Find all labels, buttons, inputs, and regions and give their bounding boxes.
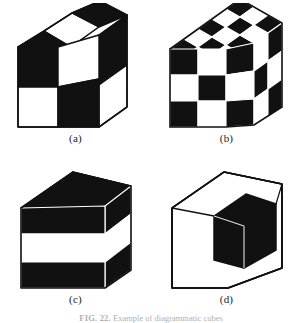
cube-a-svg <box>16 3 136 129</box>
panel-d: (d) <box>151 161 302 322</box>
panel-b-label: (b) <box>220 132 233 144</box>
cube-c-svg <box>15 164 137 290</box>
cube-b-front-face <box>170 43 254 127</box>
panel-a-label: (a) <box>69 132 82 144</box>
figure-caption-text: Example of diagrammatic cubes <box>113 314 223 323</box>
cube-b-svg <box>164 3 290 129</box>
cube-d-illustration <box>151 161 302 292</box>
cube-b-illustration <box>151 0 302 131</box>
figure-caption-tag: FIG. 22. <box>79 314 111 323</box>
panel-c-label: (c) <box>69 293 82 305</box>
panel-a: (a) <box>0 0 151 161</box>
cube-d-svg <box>166 164 288 290</box>
panel-d-label: (d) <box>220 293 233 305</box>
panel-b: (b) <box>151 0 302 161</box>
cube-c-illustration <box>0 161 151 292</box>
panel-c: (c) <box>0 161 151 322</box>
figure-caption: FIG. 22. Example of diagrammatic cubes <box>0 314 302 323</box>
cube-a-illustration <box>0 0 151 131</box>
